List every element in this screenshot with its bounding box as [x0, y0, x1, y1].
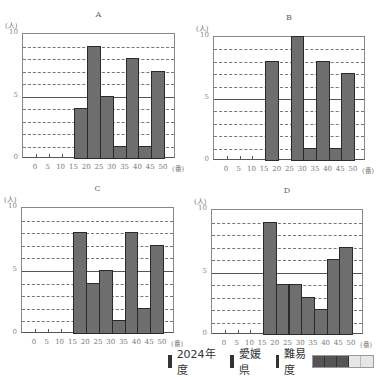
tag-marker-icon [168, 355, 172, 368]
bar-25-30 [100, 96, 114, 160]
tag-marker-icon [276, 355, 279, 368]
y-tick-label: 10 [197, 31, 209, 39]
x-tick-mark [250, 330, 251, 334]
difficulty-label: 難易度 [284, 345, 309, 377]
difficulty-meter [312, 355, 374, 368]
x-tick-mark [227, 156, 228, 160]
gridline-minor [212, 223, 362, 224]
bar-20-25 [87, 46, 101, 160]
x-tick-mark [61, 329, 62, 333]
year-tag: 2024年度 [168, 345, 222, 377]
y-tick-label: 0 [195, 329, 207, 337]
x-axis-unit: (番) [172, 163, 184, 173]
bar-25-30 [291, 36, 305, 161]
gridline-minor [22, 233, 173, 234]
footer: 2024年度 愛媛県 難易度 [168, 352, 382, 370]
difficulty-segment [337, 356, 349, 367]
bar-30-35 [303, 148, 317, 161]
difficulty-segment [349, 356, 361, 367]
plot-area [211, 209, 363, 334]
x-tick-mark [36, 154, 37, 158]
y-tick-label: 5 [5, 265, 17, 273]
x-axis-unit: (番) [362, 165, 374, 175]
y-tick-label: 10 [6, 28, 18, 36]
bar-30-35 [112, 320, 126, 334]
gridline-minor [214, 62, 364, 63]
prefecture-label: 愛媛県 [239, 345, 269, 377]
x-tick-mark [35, 329, 36, 333]
bar-40-45 [329, 148, 343, 161]
bar-15-20 [263, 222, 277, 336]
bar-35-40 [126, 58, 140, 159]
bar-35-40 [316, 61, 330, 161]
x-tick-mark [240, 156, 241, 160]
x-tick-mark [48, 329, 49, 333]
x-tick-label: 50 [156, 163, 170, 171]
bar-20-25 [276, 284, 290, 335]
difficulty-segment [361, 356, 373, 367]
difficulty-segment [325, 356, 337, 367]
x-tick-mark [62, 154, 63, 158]
chart-title: B [269, 13, 309, 22]
y-tick-label: 0 [5, 328, 17, 336]
bar-25-30 [289, 284, 303, 335]
gridline-minor [212, 235, 362, 236]
y-tick-label: 5 [6, 91, 18, 99]
x-tick-mark [49, 154, 50, 158]
y-tick-label: 10 [195, 204, 207, 212]
bar-30-35 [113, 146, 127, 160]
x-tick-mark [252, 156, 253, 160]
bar-35-40 [125, 232, 139, 334]
x-tick-label: 50 [346, 165, 360, 173]
prefecture-tag: 愛媛県 [230, 345, 268, 377]
bar-15-20 [265, 61, 279, 161]
y-tick-label: 0 [197, 155, 209, 163]
chart-title: A [79, 10, 119, 19]
x-tick-mark [238, 330, 239, 334]
y-tick-label: 5 [197, 93, 209, 101]
chart-title: C [78, 184, 118, 193]
bar-45-50 [341, 73, 355, 161]
gridline-minor [22, 221, 173, 222]
year-label: 2024年度 [177, 345, 222, 377]
y-tick-label: 10 [5, 202, 17, 210]
y-tick-label: 0 [6, 153, 18, 161]
bar-45-50 [150, 245, 164, 334]
bar-40-45 [137, 308, 151, 334]
tag-marker-icon [230, 355, 234, 368]
gridline-minor [214, 49, 364, 50]
bar-30-35 [301, 297, 315, 336]
y-tick-label: 5 [195, 267, 207, 275]
bar-40-45 [327, 259, 341, 335]
plot-area [213, 36, 365, 160]
bar-35-40 [314, 309, 328, 335]
bar-40-45 [138, 146, 152, 160]
plot-area [22, 33, 175, 158]
plot-area [21, 207, 174, 333]
bar-45-50 [151, 71, 165, 160]
bar-20-25 [86, 283, 100, 334]
bar-45-50 [339, 247, 353, 336]
bar-15-20 [73, 232, 87, 334]
difficulty-segment [313, 356, 325, 367]
chart-title: D [267, 186, 307, 195]
x-tick-label: 50 [155, 338, 169, 346]
bar-25-30 [99, 270, 113, 334]
x-tick-mark [225, 330, 226, 334]
bar-15-20 [74, 108, 88, 159]
difficulty-tag: 難易度 [276, 345, 374, 377]
